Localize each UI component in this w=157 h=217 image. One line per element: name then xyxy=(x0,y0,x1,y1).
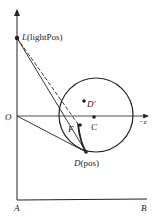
line-O-to-D xyxy=(17,116,86,152)
point-Dprime xyxy=(82,99,86,103)
label-O: O xyxy=(5,112,12,122)
line-L-to-Dprime xyxy=(17,38,84,101)
sphere-circle xyxy=(59,78,133,152)
shadow-geometry-diagram: L(lightPos) O D′ F C −z D(pos) A B xyxy=(0,0,157,217)
label-neg-z: −z xyxy=(139,118,147,126)
label-C: C xyxy=(91,122,98,132)
point-L xyxy=(15,36,19,40)
line-L-to-D xyxy=(17,38,86,152)
label-F: F xyxy=(67,124,74,134)
point-C xyxy=(92,115,96,119)
point-D xyxy=(84,150,88,154)
label-Dprime: D′ xyxy=(86,99,96,109)
dashed-line-L-to-F xyxy=(17,38,78,124)
label-D: D(pos) xyxy=(73,158,99,168)
floor-line xyxy=(17,199,147,200)
label-L: L(lightPos) xyxy=(21,32,63,42)
label-B: B xyxy=(141,203,147,213)
point-F xyxy=(78,123,82,127)
label-A: A xyxy=(13,203,20,213)
